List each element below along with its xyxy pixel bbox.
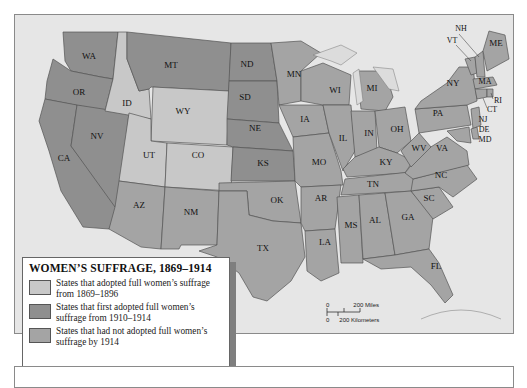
label-wi: WI <box>329 85 341 95</box>
label-de: DE <box>479 125 490 134</box>
state-wy <box>151 87 229 145</box>
label-ma: MA <box>479 77 492 86</box>
label-in: IN <box>364 128 374 138</box>
label-fl: FL <box>431 261 442 271</box>
label-id: ID <box>122 98 132 108</box>
label-mi: MI <box>367 83 378 93</box>
legend-label: States that had not adopted full women’s… <box>56 326 223 347</box>
label-la: LA <box>319 237 331 247</box>
label-tn: TN <box>367 179 379 189</box>
legend-title: WOMEN’S SUFFRAGE, 1869–1914 <box>29 262 223 274</box>
label-ia: IA <box>300 114 310 124</box>
label-nm: NM <box>184 207 199 217</box>
label-az: AZ <box>133 200 145 210</box>
label-ca: CA <box>58 153 71 163</box>
swatch-dark <box>29 304 51 319</box>
label-wv: WV <box>412 143 427 153</box>
label-mo: MO <box>312 157 327 167</box>
label-ne: NE <box>249 123 261 133</box>
legend-item-1869-1896: States that adopted full women’s suffrag… <box>29 278 223 299</box>
label-il: IL <box>339 133 348 143</box>
map-scale: 0 200 Miles 0 200 Kilometers <box>326 302 379 323</box>
label-nh: NH <box>455 24 467 33</box>
legend-item-1910-1914: States that first adopted full women’s s… <box>29 302 223 323</box>
label-sc: SC <box>423 193 434 203</box>
map-legend: WOMEN’S SUFFRAGE, 1869–1914 States that … <box>22 257 230 367</box>
swatch-mid <box>29 328 51 343</box>
label-ri: RI <box>494 96 502 105</box>
label-ct: CT <box>487 105 497 114</box>
legend-item-not-adopted: States that had not adopted full women’s… <box>29 326 223 347</box>
label-ar: AR <box>315 193 328 203</box>
state-ct <box>475 89 487 99</box>
label-ut: UT <box>143 150 155 160</box>
label-pa: PA <box>433 108 444 118</box>
state-ar <box>301 185 341 231</box>
state-nm <box>161 187 219 249</box>
bottom-panel <box>14 366 514 388</box>
state-sd <box>227 81 279 123</box>
label-ms: MS <box>344 220 357 230</box>
label-ks: KS <box>257 158 269 168</box>
label-md: MD <box>479 135 492 144</box>
label-nc: NC <box>435 170 448 180</box>
label-nd: ND <box>241 59 254 69</box>
scale-km-label: 200 Kilometers <box>339 317 379 323</box>
label-ny: NY <box>447 78 460 88</box>
scale-bar <box>326 308 366 316</box>
legend-label: States that first adopted full women’s s… <box>56 302 223 323</box>
label-ky: KY <box>380 157 393 167</box>
label-ok: OK <box>271 195 284 205</box>
label-co: CO <box>192 150 205 160</box>
label-oh: OH <box>391 124 404 134</box>
label-or: OR <box>73 87 86 97</box>
label-wy: WY <box>176 106 191 116</box>
label-va: VA <box>436 143 448 153</box>
label-ga: GA <box>402 212 415 222</box>
label-tx: TX <box>257 243 269 253</box>
label-al: AL <box>369 215 381 225</box>
label-vt: VT <box>447 36 458 45</box>
legend-label: States that adopted full women’s suffrag… <box>56 278 223 299</box>
label-sd: SD <box>239 92 251 102</box>
label-me: ME <box>489 38 503 48</box>
label-nj: NJ <box>479 115 488 124</box>
label-nv: NV <box>91 131 104 141</box>
scale-km-zero: 0 <box>326 317 329 323</box>
label-wa: WA <box>82 51 96 61</box>
label-mt: MT <box>164 60 178 70</box>
swatch-light <box>29 280 51 295</box>
label-mn: MN <box>287 69 302 79</box>
